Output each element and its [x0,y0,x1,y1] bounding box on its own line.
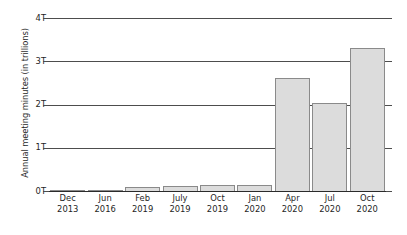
x-tick-label-month: Oct [349,193,386,204]
bar [50,190,85,192]
gridline [49,191,386,192]
bar [163,186,198,191]
plot-area [49,18,386,191]
x-tick-label-month: Jan [236,193,273,204]
bar [200,185,235,191]
y-axis-tick-labels: 4T 3T 2T 1T 0T [16,0,46,235]
bar-chart: Annual meeting minutes (in trillions) 4T… [0,0,407,235]
x-tick-label: Apr2020 [274,193,311,215]
x-tick-label-month: Jul [311,193,348,204]
y-axis-right-tick-mark [386,191,392,192]
x-tick-label: Dec2013 [49,193,86,215]
bar [350,48,385,191]
x-tick-label-month: Jun [86,193,123,204]
x-tick-label-year: 2019 [161,204,198,215]
bar [237,185,272,191]
x-tick-label-year: 2020 [311,204,348,215]
x-tick-label-year: 2020 [236,204,273,215]
x-tick-label-month: Oct [199,193,236,204]
x-tick-label-year: 2019 [124,204,161,215]
x-tick-label: July2019 [161,193,198,215]
x-tick-label: Jun2016 [86,193,123,215]
bar [88,190,123,192]
x-tick-label-year: 2020 [349,204,386,215]
x-axis-tick-labels: Dec2013Jun2016Feb2019July2019Oct2019Jan2… [49,193,386,233]
bar [275,78,310,191]
x-tick-label: Feb2019 [124,193,161,215]
x-tick-label-year: 2016 [86,204,123,215]
x-tick-label-year: 2019 [199,204,236,215]
y-axis-tick-mark [43,191,49,192]
x-tick-label: Oct2019 [199,193,236,215]
bar [312,103,347,191]
y-axis-right-tick-mark [386,61,392,62]
x-tick-label-month: July [161,193,198,204]
x-tick-label: Jul2020 [311,193,348,215]
x-tick-label-month: Feb [124,193,161,204]
x-tick-label-year: 2020 [274,204,311,215]
x-tick-label: Jan2020 [236,193,273,215]
y-axis-right-tick-mark [386,105,392,106]
bars-group [49,18,386,191]
bar [125,187,160,191]
y-axis-right-tick-mark [386,148,392,149]
x-tick-label-month: Dec [49,193,86,204]
x-tick-label-year: 2013 [49,204,86,215]
x-tick-label-month: Apr [274,193,311,204]
x-tick-label: Oct2020 [349,193,386,215]
y-axis-right-tick-mark [386,18,392,19]
